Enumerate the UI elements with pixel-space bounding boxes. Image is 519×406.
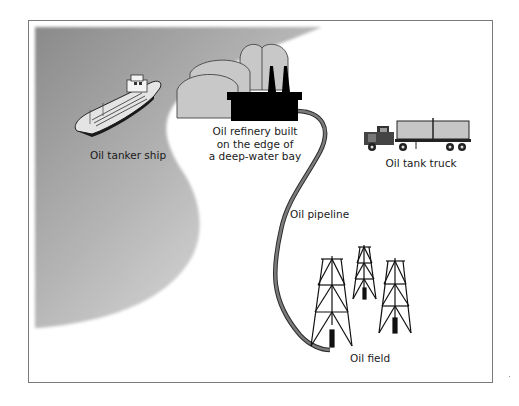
label-refinery-line3: a deep-water bay (200, 150, 310, 163)
label-refinery: Oil refinery built on the edge of a deep… (200, 125, 310, 163)
label-refinery-line1: Oil refinery built (200, 125, 310, 138)
label-pipeline: Oil pipeline (290, 208, 349, 221)
stray-dot (509, 376, 510, 377)
label-oil-field: Oil field (350, 352, 390, 365)
label-tank-truck: Oil tank truck (376, 157, 466, 170)
label-refinery-line2: on the edge of (200, 138, 310, 151)
diagram-scene (0, 0, 519, 406)
truck-icon (364, 118, 471, 151)
derrick-icon (311, 245, 411, 347)
label-tanker-ship: Oil tanker ship (83, 149, 173, 162)
